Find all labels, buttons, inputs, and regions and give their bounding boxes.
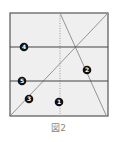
marker-label: 1 [57, 98, 61, 105]
figure-2: 1 2 3 4 5 図2 [0, 0, 117, 142]
marker-label: 2 [85, 66, 89, 73]
marker-5: 5 [18, 77, 27, 86]
marker-4: 4 [20, 43, 29, 52]
marker-2: 2 [83, 66, 92, 75]
marker-label: 4 [22, 43, 26, 50]
marker-3: 3 [25, 95, 34, 104]
marker-label: 5 [20, 77, 24, 84]
marker-1: 1 [55, 98, 64, 107]
figure-caption: 図2 [0, 121, 117, 134]
marker-label: 3 [27, 95, 31, 102]
